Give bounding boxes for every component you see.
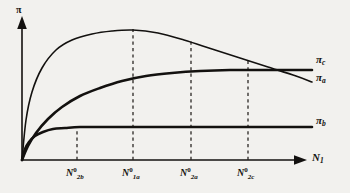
curve-label-pi-a: πa (316, 72, 326, 85)
x-axis-label-sub: 1 (320, 156, 324, 165)
curve-label-sub: a (322, 76, 326, 85)
curve-label-pi-c: πc (316, 54, 325, 67)
x-tick-label-n2b: N02b (66, 167, 84, 181)
profit-curves-chart (0, 0, 350, 193)
x-axis-label-base: N (312, 151, 320, 163)
chart-background (0, 0, 350, 193)
tick-sub: 1a (133, 173, 140, 181)
x-tick-label-n2a: N02a (180, 167, 198, 181)
curve-label-sub: c (322, 58, 325, 67)
y-axis-label: π (16, 5, 21, 15)
x-tick-label-n1a: N01a (122, 167, 140, 181)
x-axis-label: N1 (312, 152, 324, 165)
curve-label-pi-b: πb (316, 115, 326, 128)
tick-sub: 2b (77, 173, 84, 181)
curve-label-sub: b (322, 119, 326, 128)
tick-sub: 2c (248, 173, 255, 181)
tick-sub: 2a (191, 173, 198, 181)
x-tick-label-n2c: N02c (237, 167, 254, 181)
